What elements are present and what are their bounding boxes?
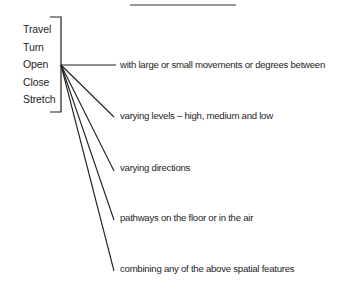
connector-lines — [0, 0, 360, 292]
feature-pathways: pathways on the floor or in the air — [120, 212, 253, 224]
action-close: Close — [23, 76, 49, 88]
connector-line-3 — [61, 65, 114, 171]
feature-directions: varying directions — [120, 162, 190, 174]
feature-combining: combining any of the above spatial featu… — [120, 263, 294, 275]
feature-levels: varying levels – high, medium and low — [120, 110, 273, 122]
action-travel: Travel — [23, 23, 51, 35]
connector-line-5 — [61, 65, 114, 271]
connector-line-2 — [61, 65, 114, 117]
spatial-features-diagram: Travel Turn Open Close Stretch with larg… — [0, 0, 360, 292]
feature-movement-size: with large or small movements or degrees… — [120, 59, 325, 71]
action-turn: Turn — [23, 41, 44, 53]
connector-line-4 — [61, 65, 114, 220]
action-stretch: Stretch — [23, 93, 56, 105]
action-open: Open — [23, 58, 48, 70]
